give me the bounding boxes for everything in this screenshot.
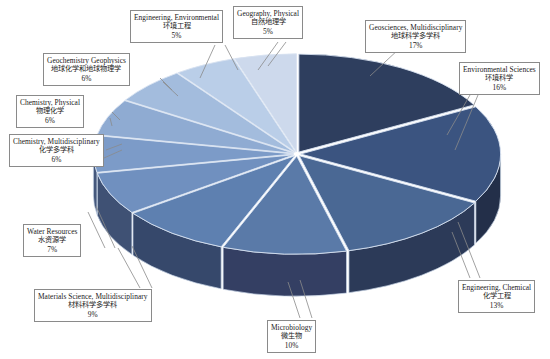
pie-slice-side-microbiology: [223, 247, 346, 296]
callout-label-percent: 7%: [27, 245, 77, 254]
callout-microbiology[interactable]: Microbiology 微生物 10%: [267, 320, 316, 353]
callout-geosciences-multidisciplinary[interactable]: Geosciences, Multidisciplinary 地球科学多学科 1…: [365, 20, 466, 53]
callout-label-percent: 5%: [134, 31, 219, 40]
callout-label-zh: 地球科学多学科: [369, 32, 462, 41]
callout-engineering-chemical[interactable]: Engineering, Chemical 化学工程 13%: [458, 280, 535, 313]
pie-top-faces: [93, 54, 500, 254]
callout-label-percent: 13%: [462, 301, 531, 310]
callout-label-zh: 微生物: [271, 332, 312, 341]
callout-label-percent: 6%: [47, 74, 126, 83]
callout-geography-physical[interactable]: Geography, Physical 自然地理学 5%: [233, 6, 303, 39]
callout-label-zh: 地球化学和地球物理学: [47, 65, 126, 74]
callout-label-percent: 5%: [237, 27, 299, 36]
callout-label-zh: 化学多学科: [13, 146, 100, 155]
callout-label-zh: 化学工程: [462, 292, 531, 301]
pie-chart-figure: Engineering, Environmental 环境工程 5% Geogr…: [0, 0, 550, 359]
callout-label-zh: 物理化学: [20, 107, 80, 116]
callout-label-zh: 水资源学: [27, 236, 77, 245]
callout-label-percent: 17%: [369, 41, 462, 50]
callout-label-percent: 10%: [271, 341, 312, 350]
callout-environmental-sciences[interactable]: Environmental Sciences 环境科学 16%: [459, 62, 540, 95]
callout-label-zh: 材料科学多学科: [38, 301, 148, 310]
callout-label-percent: 6%: [20, 116, 80, 125]
callout-label-percent: 16%: [463, 83, 536, 92]
callout-geochemistry-geophysics[interactable]: Geochemistry Geophysics 地球化学和地球物理学 6%: [43, 53, 130, 86]
callout-label-percent: 6%: [13, 155, 100, 164]
callout-materials-science-multidisciplinary[interactable]: Materials Science, Multidisciplinary 材料科…: [34, 289, 152, 322]
callout-label-zh: 环境科学: [463, 74, 536, 83]
callout-chemistry-multidisciplinary[interactable]: Chemistry, Multidisciplinary 化学多学科 6%: [9, 134, 104, 167]
callout-water-resources[interactable]: Water Resources 水资源学 7%: [23, 224, 81, 257]
callout-chemistry-physical[interactable]: Chemistry, Physical 物理化学 6%: [16, 95, 84, 128]
callout-label-percent: 9%: [38, 310, 148, 319]
callout-engineering-environmental[interactable]: Engineering, Environmental 环境工程 5%: [130, 10, 223, 43]
callout-label-zh: 自然地理学: [237, 18, 299, 27]
callout-label-zh: 环境工程: [134, 22, 219, 31]
